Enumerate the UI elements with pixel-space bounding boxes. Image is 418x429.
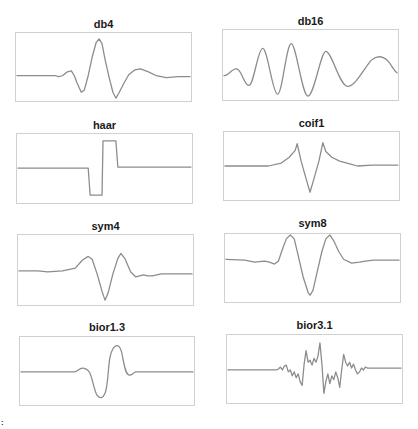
plot-area [16, 133, 193, 204]
panel-title: db16 [222, 15, 399, 27]
panel-sym4: sym4 [17, 218, 194, 306]
panel-db4: db4 [15, 16, 192, 102]
panel-title: haar [16, 119, 193, 131]
plot-area [224, 233, 401, 303]
wavelet-curve [223, 30, 398, 100]
panel-haar: haar [16, 117, 193, 204]
wavelet-curve [18, 235, 193, 305]
plot-area [17, 234, 194, 306]
wavelet-curve [20, 337, 194, 405]
panel-title: sym8 [224, 217, 401, 229]
wavelet-curve [225, 234, 400, 302]
panel-title: coif1 [223, 117, 400, 129]
panel-title: db4 [15, 18, 192, 30]
wavelet-curve [16, 33, 191, 101]
wavelet-curve [17, 134, 192, 203]
panel-title: bior1.3 [19, 321, 195, 333]
corner-mark: : [1, 418, 4, 427]
wavelet-curve [224, 132, 399, 200]
panel-coif1: coif1 [223, 115, 400, 201]
panel-title: bior3.1 [226, 319, 403, 331]
plot-area [223, 131, 400, 201]
plot-area [222, 29, 399, 101]
plot-area [15, 32, 192, 102]
panel-sym8: sym8 [224, 217, 401, 303]
plot-area [19, 336, 195, 406]
panel-title: sym4 [17, 220, 194, 232]
plot-area [226, 334, 403, 404]
panel-bior1.3: bior1.3 [19, 320, 195, 406]
wavelet-curve [227, 335, 402, 403]
panel-bior3.1: bior3.1 [226, 318, 403, 404]
panel-db16: db16 [222, 13, 399, 101]
